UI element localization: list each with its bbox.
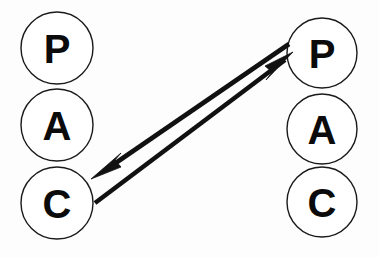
node-left-c-label: C bbox=[43, 182, 72, 226]
arrow-right-p-to-left-c-shaft bbox=[104, 44, 289, 171]
diagram-svg: P A C P A C bbox=[0, 0, 379, 257]
node-right-a[interactable]: A bbox=[287, 94, 357, 164]
right-column-group: P A C bbox=[287, 18, 357, 237]
node-right-c-label: C bbox=[308, 181, 337, 225]
diagram-canvas: P A C P A C bbox=[0, 0, 379, 257]
left-column-group: P A C bbox=[21, 12, 93, 239]
node-right-c[interactable]: C bbox=[287, 167, 357, 237]
node-left-a-label: A bbox=[43, 104, 72, 148]
node-left-p-label: P bbox=[44, 27, 71, 71]
node-right-p[interactable]: P bbox=[287, 18, 357, 88]
node-right-a-label: A bbox=[308, 108, 337, 152]
arrow-right-p-to-left-c[interactable] bbox=[91, 44, 289, 179]
node-right-p-label: P bbox=[309, 32, 336, 76]
arrow-right-p-to-left-c-head bbox=[91, 153, 121, 179]
arrow-left-c-to-right-p-shaft bbox=[95, 60, 285, 203]
node-left-p[interactable]: P bbox=[21, 12, 93, 84]
arrow-left-c-to-right-p[interactable] bbox=[95, 52, 293, 203]
node-left-c[interactable]: C bbox=[21, 167, 93, 239]
node-left-a[interactable]: A bbox=[21, 89, 93, 161]
